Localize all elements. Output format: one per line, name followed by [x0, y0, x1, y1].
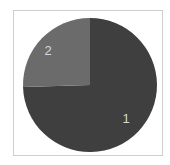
pie-slice-2: [23, 18, 90, 87]
slice-label-1: 1: [122, 111, 129, 126]
pie-chart: 1 2: [0, 0, 170, 165]
slice-label-2: 2: [44, 43, 51, 58]
